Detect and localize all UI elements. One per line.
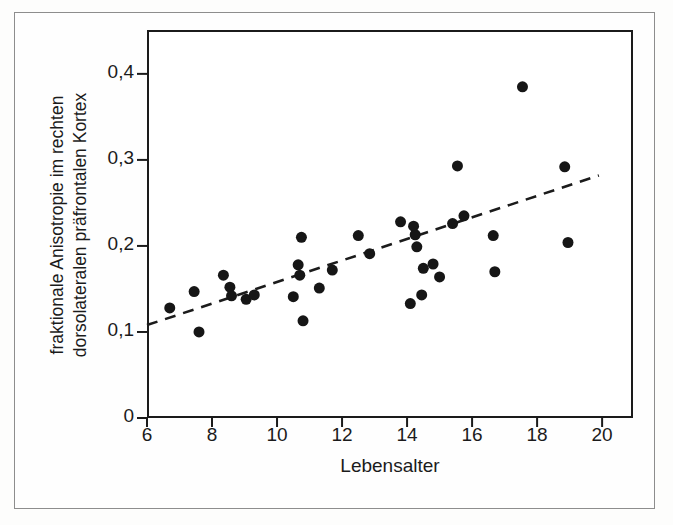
y-tick-label: 0,3 [108, 147, 134, 169]
scatter-point [353, 230, 364, 241]
y-tick-label: 0,1 [108, 319, 134, 341]
scatter-point [517, 81, 528, 92]
x-tick-label: 12 [331, 424, 352, 446]
scatter-point [428, 259, 439, 270]
scatter-point [288, 291, 299, 302]
scatter-point [452, 160, 463, 171]
y-tick-label: 0,2 [108, 233, 134, 255]
scatter-point [562, 237, 573, 248]
scatter-point [294, 270, 305, 281]
scatter-point [405, 298, 416, 309]
scatter-point [489, 266, 500, 277]
scatter-point [327, 265, 338, 276]
y-axis-title-line-2: dorsolateralen präfrontalen Kortex [69, 15, 92, 435]
x-axis-title: Lebensalter [147, 455, 633, 477]
scatter-point [194, 326, 205, 337]
y-axis-title: fraktionale Anisotropie im rechten dorso… [46, 15, 92, 435]
y-tick-label: 0,4 [108, 61, 134, 83]
x-tick-label: 20 [592, 424, 613, 446]
scatter-point [293, 259, 304, 270]
x-axis-tick-labels: 68101214161820 [0, 424, 673, 454]
scatter-point [488, 230, 499, 241]
figure-root: 00,10,20,30,4 68101214161820 Lebensalter… [0, 0, 673, 525]
x-tick-label: 6 [142, 424, 153, 446]
x-tick-label: 16 [462, 424, 483, 446]
scatter-point [298, 315, 309, 326]
x-tick-label: 8 [207, 424, 218, 446]
y-axis-ticks [137, 74, 147, 418]
scatter-point [411, 241, 422, 252]
scatter-point [218, 270, 229, 281]
scatter-point [458, 210, 469, 221]
scatter-point [418, 263, 429, 274]
scatter-point [395, 216, 406, 227]
x-tick-label: 14 [396, 424, 417, 446]
scatter-point [314, 283, 325, 294]
scatter-point [434, 271, 445, 282]
scatter-point [164, 302, 175, 313]
scatter-point [447, 218, 458, 229]
scatter-point [249, 289, 260, 300]
scatter-point [416, 289, 427, 300]
scatter-point [226, 290, 237, 301]
x-tick-label: 10 [266, 424, 287, 446]
scatter-point [296, 232, 307, 243]
y-axis-title-line-1: fraktionale Anisotropie im rechten [46, 15, 69, 435]
scatter-point [559, 161, 570, 172]
scatter-point [189, 286, 200, 297]
scatter-point [410, 229, 421, 240]
scatter-point [364, 248, 375, 259]
x-tick-label: 18 [527, 424, 548, 446]
